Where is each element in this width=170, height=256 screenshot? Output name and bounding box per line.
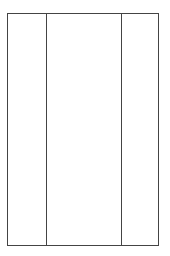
outer-frame	[7, 13, 159, 246]
left-column	[8, 14, 46, 245]
center-column	[47, 14, 121, 245]
right-column	[122, 14, 158, 245]
